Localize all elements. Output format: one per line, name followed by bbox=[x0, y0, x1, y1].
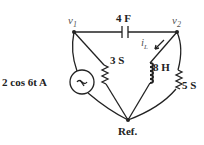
v1-sub: 1 bbox=[73, 20, 77, 29]
inductor-label: 8 H bbox=[153, 62, 170, 73]
resistor-3s-label: 3 S bbox=[110, 55, 124, 66]
source-label: 2 cos 6t A bbox=[2, 77, 47, 88]
capacitor-label: 4 F bbox=[116, 13, 131, 24]
node-v2-label: v2 bbox=[172, 15, 181, 30]
resistor-5s-label: 5 S bbox=[182, 80, 196, 91]
ref-label: Ref. bbox=[118, 126, 137, 137]
node-v1-label: v1 bbox=[68, 15, 77, 30]
v2-sub: 2 bbox=[177, 20, 181, 29]
current-il-label: iL bbox=[141, 37, 148, 53]
il-sub: L bbox=[144, 43, 148, 51]
